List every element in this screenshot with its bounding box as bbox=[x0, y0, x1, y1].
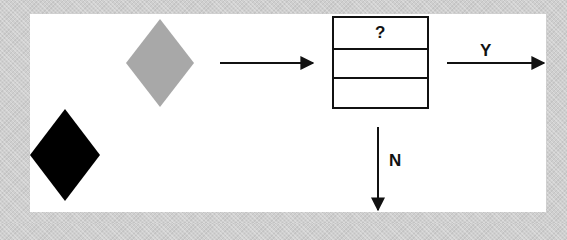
grey-diamond-shape bbox=[126, 19, 194, 107]
black-diamond-shape bbox=[30, 109, 100, 201]
flowchart bbox=[0, 0, 567, 223]
no-label: N bbox=[389, 152, 401, 169]
yes-label: Y bbox=[480, 42, 491, 59]
box-cell-question: ? bbox=[375, 24, 385, 41]
